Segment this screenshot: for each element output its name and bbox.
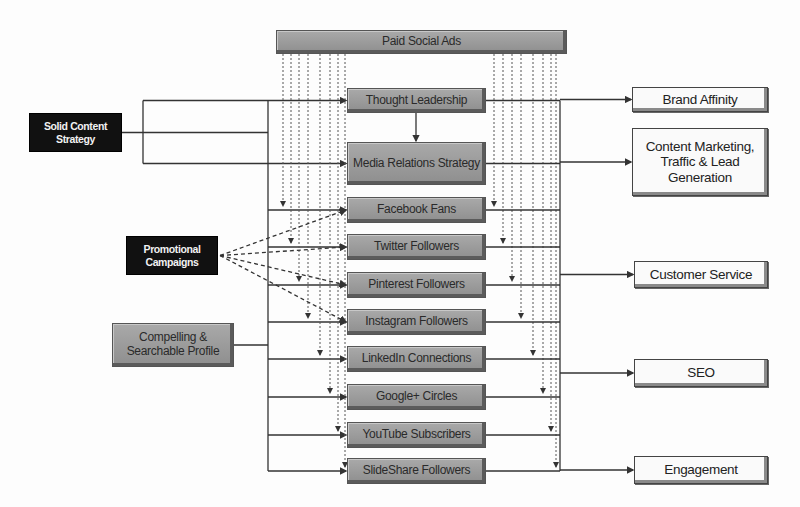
channel-linkedin-box: LinkedIn Connections (347, 346, 486, 372)
outcome-seo-box-label: SEO (687, 365, 715, 381)
channel-slideshare-box-label: SlideShare Followers (363, 464, 470, 478)
channel-youtube-box: YouTube Subscribers (347, 422, 486, 448)
input-profile-box-label: Compelling & Searchable Profile (113, 331, 233, 359)
input-solid-box: Solid Content Strategy (29, 113, 122, 152)
channel-facebook-box-label: Facebook Fans (377, 203, 456, 217)
outcome-engage-box: Engagement (634, 456, 768, 484)
input-promo-box: Promotional Campaigns (126, 236, 218, 275)
paid-social-ads-box-label: Paid Social Ads (382, 35, 461, 49)
social-media-strategy-diagram: Paid Social AdsSolid Content StrategyPro… (0, 0, 800, 507)
paid-social-ads-box: Paid Social Ads (276, 30, 567, 54)
channel-media-box: Media Relations Strategy (347, 142, 486, 185)
channel-instagram-box-label: Instagram Followers (365, 315, 467, 329)
channel-thought-box: Thought Leadership (347, 88, 486, 113)
outcome-brand-box-label: Brand Affinity (662, 92, 737, 108)
channel-facebook-box: Facebook Fans (347, 197, 486, 223)
channel-google-box-label: Google+ Circles (376, 390, 457, 404)
channel-media-box-label: Media Relations Strategy (353, 157, 480, 171)
channel-pinterest-box: Pinterest Followers (347, 272, 486, 298)
channel-twitter-box: Twitter Followers (347, 234, 486, 260)
channel-youtube-box-label: YouTube Subscribers (362, 428, 470, 442)
outcome-seo-box: SEO (634, 359, 768, 387)
outcome-brand-box: Brand Affinity (632, 87, 768, 112)
input-profile-box: Compelling & Searchable Profile (112, 323, 234, 367)
promo-dashed-line (220, 256, 346, 323)
channel-instagram-box: Instagram Followers (347, 309, 486, 335)
channel-linkedin-box-label: LinkedIn Connections (362, 352, 471, 366)
outcome-content-box: Content Marketing, Traffic & Lead Genera… (632, 128, 768, 196)
channel-thought-box-label: Thought Leadership (366, 94, 467, 108)
channel-slideshare-box: SlideShare Followers (347, 458, 486, 484)
outcome-content-box-label: Content Marketing, Traffic & Lead Genera… (633, 139, 767, 186)
channel-pinterest-box-label: Pinterest Followers (368, 278, 464, 292)
input-promo-box-label: Promotional Campaigns (127, 243, 217, 267)
outcome-service-box: Customer Service (634, 261, 768, 288)
promo-dashed-line (220, 247, 346, 256)
outcome-service-box-label: Customer Service (650, 267, 752, 283)
channel-google-box: Google+ Circles (347, 384, 486, 410)
outcome-engage-box-label: Engagement (664, 462, 738, 478)
input-solid-box-label: Solid Content Strategy (30, 120, 121, 144)
channel-twitter-box-label: Twitter Followers (374, 240, 459, 254)
promo-dashed-line (220, 256, 346, 286)
